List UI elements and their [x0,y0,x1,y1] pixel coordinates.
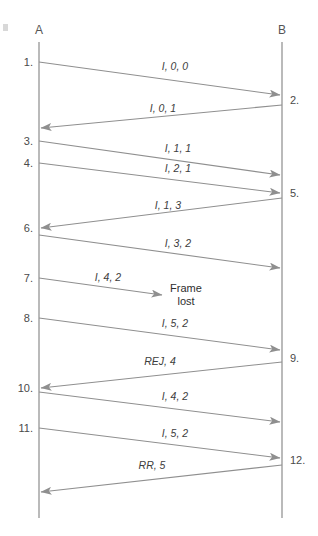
step-marker-6: 6. [24,222,33,234]
message-label: I, 4, 2 [162,390,188,402]
step-marker-10: 10. [18,382,33,394]
step-marker-5: 5. [290,187,299,199]
message-arrow [39,141,280,175]
sequence-diagram: A B I, 0, 0I, 0, 1I, 1, 1I, 2, 1I, 1, 3I… [0,0,318,536]
station-label-a: A [35,23,43,37]
step-marker-2: 2. [290,94,299,106]
message-arrow [39,62,280,95]
message-arrow [39,428,280,458]
station-label-b: B [278,23,286,37]
message-arrow [39,392,280,422]
steps-left-group: 1.3.4.6.7.8.10.11. [18,56,33,434]
message-arrow [39,235,280,268]
message-label: RR, 5 [139,459,166,471]
step-marker-8: 8. [24,312,33,324]
message-label: I, 5, 2 [162,317,188,329]
step-marker-7: 7. [24,272,33,284]
message-arrow [39,163,280,193]
frame-lost-line2: lost [177,295,194,307]
step-marker-11: 11. [19,422,33,434]
corner-mark [3,24,8,31]
message-label: I, 1, 3 [155,199,181,211]
frame-lost-line1: Frame [170,282,202,294]
step-marker-12: 12. [290,454,305,466]
diagram-canvas: A B I, 0, 0I, 0, 1I, 1, 1I, 2, 1I, 1, 3I… [0,0,318,536]
step-marker-3: 3. [24,135,33,147]
message-arrow [39,318,280,350]
message-label: I, 4, 2 [95,271,121,283]
step-marker-4: 4. [24,157,33,169]
notes-group: Framelost [170,282,202,307]
message-label: REJ, 4 [144,355,176,367]
step-marker-9: 9. [290,352,299,364]
message-label: I, 0, 1 [150,102,176,114]
messages-group: I, 0, 0I, 0, 1I, 1, 1I, 2, 1I, 1, 3I, 3,… [39,60,282,492]
message-label: I, 2, 1 [165,162,191,174]
message-label: I, 0, 0 [162,60,188,72]
message-label: I, 1, 1 [165,142,191,154]
message-label: I, 5, 2 [162,427,188,439]
step-marker-1: 1. [24,56,33,68]
steps-right-group: 2.5.9.12. [290,94,305,466]
message-label: I, 3, 2 [165,237,191,249]
